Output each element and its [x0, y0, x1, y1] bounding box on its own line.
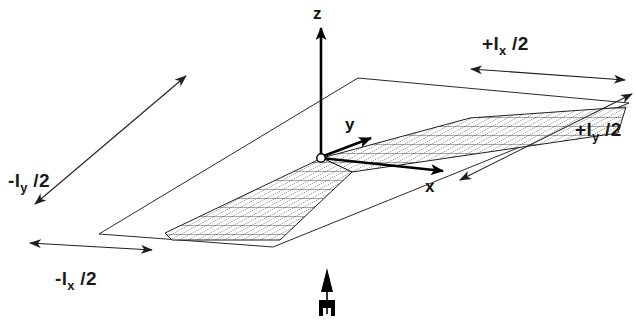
dimension-plus-lx-half: +lx /2 — [471, 33, 625, 80]
dimension-minus-ly-half: -ly /2 — [8, 76, 186, 204]
origin-marker — [317, 154, 325, 162]
incident-direction-arrow — [319, 268, 335, 316]
axis-label-x: x — [425, 177, 435, 196]
axis-label-y: y — [345, 115, 355, 134]
dimension-minus-lx-half: -lx /2 — [30, 243, 152, 293]
dimension-label-minus-ly-half: -ly /2 — [8, 170, 50, 195]
dimension-label-plus-lx-half: +lx /2 — [482, 33, 529, 58]
axis-z: z — [313, 4, 322, 156]
diagram-svg: +lx /2 +ly /2 -ly /2 -lx /2 — [0, 0, 636, 323]
figure-canvas: +lx /2 +ly /2 -ly /2 -lx /2 — [0, 0, 636, 323]
axis-label-z: z — [313, 4, 322, 23]
dimension-label-minus-lx-half: -lx /2 — [55, 268, 97, 293]
hatched-aperture — [165, 107, 626, 240]
